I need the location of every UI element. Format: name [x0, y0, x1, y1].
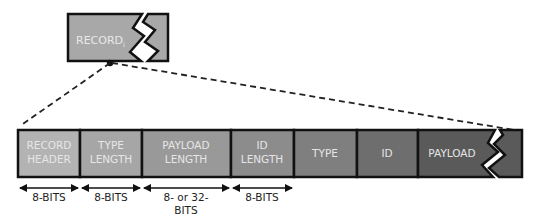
svg-text:ID: ID [381, 147, 392, 159]
svg-text:LENGTH: LENGTH [90, 153, 132, 165]
svg-text:PAYLOAD: PAYLOAD [162, 139, 209, 151]
svg-text:8- or 32-: 8- or 32- [163, 191, 208, 203]
ndef-record-diagram: RECORDi RECORD HEADER TYPE LENGTH PAYLOA… [0, 0, 538, 223]
svg-text:RECORD: RECORD [27, 139, 72, 151]
zoom-line-left [20, 63, 110, 126]
svg-text:8-BITS: 8-BITS [245, 191, 279, 203]
svg-text:8-BITS: 8-BITS [94, 191, 128, 203]
svg-text:LENGTH: LENGTH [165, 153, 207, 165]
zoom-line-right [112, 63, 514, 130]
svg-text:TYPE: TYPE [97, 139, 124, 151]
svg-text:LENGTH: LENGTH [241, 153, 283, 165]
svg-text:ID: ID [256, 139, 267, 151]
record-box: RECORDi [68, 14, 168, 66]
svg-text:BITS: BITS [174, 204, 198, 216]
svg-text:PAYLOAD: PAYLOAD [428, 147, 475, 159]
svg-text:TYPE: TYPE [311, 147, 338, 159]
svg-text:8-BITS: 8-BITS [32, 191, 66, 203]
record-label: RECORDi [76, 34, 125, 49]
svg-text:HEADER: HEADER [27, 153, 71, 165]
record-fields: RECORD HEADER TYPE LENGTH PAYLOAD LENGTH… [18, 130, 522, 177]
